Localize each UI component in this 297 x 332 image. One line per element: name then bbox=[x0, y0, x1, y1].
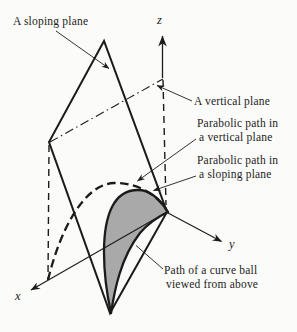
x-axis-label: x bbox=[15, 290, 21, 302]
leader-curveball-path bbox=[136, 246, 163, 270]
label-parabolic-vertical: Parabolic path in a vertical plane bbox=[197, 117, 278, 144]
figure-container: A sloping plane A vertical plane Parabol… bbox=[0, 0, 297, 332]
label-vertical-plane: A vertical plane bbox=[194, 95, 270, 109]
leader-vertical-plane bbox=[157, 86, 192, 102]
label-sloping-plane: A sloping plane bbox=[13, 15, 88, 29]
z-axis-label: z bbox=[157, 14, 162, 26]
leader-sloping-plane bbox=[56, 31, 109, 69]
vertical-plane-left-edge-dashed bbox=[48, 145, 49, 280]
x-axis bbox=[31, 212, 167, 290]
y-axis bbox=[168, 213, 222, 242]
y-axis-label: y bbox=[229, 238, 235, 250]
label-curveball-path: Path of a curve ball viewed from above bbox=[164, 264, 258, 291]
leader-parabola-sloping bbox=[154, 176, 197, 191]
leader-parabola-vertical bbox=[138, 139, 197, 181]
label-parabolic-sloping: Parabolic path in a sloping plane bbox=[197, 154, 278, 181]
